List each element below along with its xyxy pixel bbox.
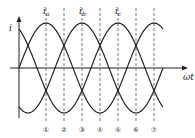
x-axis-arrow-icon: [182, 66, 188, 71]
y-axis-arrow-icon: [17, 16, 22, 22]
marker-dashed-lines: [46, 8, 154, 122]
label-ic: ic: [115, 6, 122, 17]
marker-4: ④: [97, 126, 103, 134]
three-phase-diagram: i ωt iaibic ①②③④⑤⑥⑦: [0, 0, 195, 138]
marker-7: ⑦: [151, 126, 157, 134]
marker-1: ①: [43, 126, 49, 134]
marker-2: ②: [61, 126, 67, 134]
label-ia: ia: [43, 6, 50, 17]
y-axis-label: i: [9, 23, 12, 33]
marker-3: ③: [79, 126, 85, 134]
marker-5: ⑤: [115, 126, 121, 134]
marker-numbers: ①②③④⑤⑥⑦: [43, 126, 157, 134]
label-ib: ib: [79, 6, 86, 17]
x-axis-label: ωt: [183, 72, 194, 82]
marker-6: ⑥: [133, 126, 139, 134]
curve-labels: iaibic: [43, 6, 122, 17]
